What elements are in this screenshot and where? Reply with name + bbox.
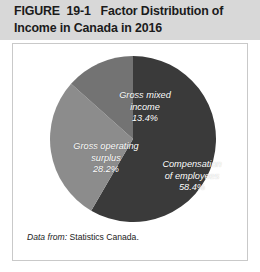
figure-title: FIGURE 19-1 Factor Distribution of Incom…	[14, 3, 250, 36]
figure-container: FIGURE 19-1 Factor Distribution of Incom…	[0, 0, 260, 272]
figure-header: FIGURE 19-1 Factor Distribution of Incom…	[0, 0, 260, 40]
source-note: Data from: Statistics Canada.	[27, 232, 139, 243]
source-note-body: Statistics Canada.	[67, 232, 139, 242]
chart-panel: Gross mixed income 13.4% Gross operating…	[12, 43, 248, 261]
pie-chart: Gross mixed income 13.4% Gross operating…	[50, 56, 216, 222]
pie-chart-svg	[50, 56, 216, 222]
source-note-lead: Data from:	[27, 232, 67, 242]
